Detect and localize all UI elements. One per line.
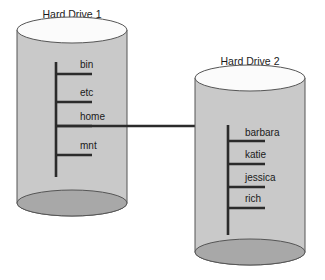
hard-drive-1-cylinder-top bbox=[17, 17, 127, 43]
tree-label-mnt: mnt bbox=[80, 140, 97, 151]
tree-label-barbara: barbara bbox=[245, 127, 280, 138]
tree-label-jessica: jessica bbox=[244, 172, 276, 183]
tree-label-etc: etc bbox=[80, 87, 93, 98]
tree-label-home: home bbox=[80, 111, 105, 122]
hard-drive-1-group: Hard Drive 1 bin etc home mnt bbox=[17, 8, 127, 216]
hard-drive-2-cylinder-bottom bbox=[195, 239, 305, 265]
hard-drive-2-cylinder-top bbox=[195, 65, 305, 91]
tree-label-bin: bin bbox=[80, 59, 93, 70]
tree-label-rich: rich bbox=[245, 193, 261, 204]
hard-drive-2-group: Hard Drive 2 barbara katie jessica rich bbox=[195, 55, 305, 265]
hard-drive-1-cylinder-bottom bbox=[17, 190, 127, 216]
diagram-canvas: Hard Drive 1 bin etc home mnt Hard Drive bbox=[0, 0, 325, 280]
tree-label-katie: katie bbox=[245, 149, 267, 160]
filesystem-mount-diagram: Hard Drive 1 bin etc home mnt Hard Drive bbox=[0, 0, 325, 280]
hard-drive-1-cylinder-body bbox=[17, 30, 127, 216]
